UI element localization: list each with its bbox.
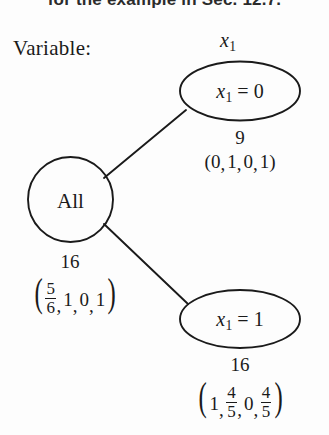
node-relation: = bbox=[237, 308, 248, 330]
fraction-numerator: 4 bbox=[226, 384, 237, 401]
node-value: 0 bbox=[254, 80, 264, 102]
tuple-item-0: 0 bbox=[211, 151, 221, 172]
figure-canvas: for the example in Sec. 12.7. Variable: … bbox=[0, 0, 329, 435]
tuple-item-2: 0 bbox=[244, 394, 254, 413]
node-symbol: x bbox=[216, 308, 225, 330]
fraction-denominator: 5 bbox=[226, 403, 237, 420]
root-node-label: All bbox=[28, 191, 113, 212]
node-label-x1-equals-1: x1 = 1 bbox=[180, 309, 300, 332]
fraction-denominator: 6 bbox=[45, 299, 56, 316]
count-x1-equals-0: 9 bbox=[190, 128, 290, 147]
tuple-item-2: 0 bbox=[79, 290, 89, 309]
tuple-x1-equals-0: (0,1,0,1) bbox=[175, 152, 305, 173]
tuple-item-1-fraction: 4 5 bbox=[226, 384, 237, 421]
fraction-numerator: 4 bbox=[261, 384, 272, 401]
fraction-numerator: 5 bbox=[45, 280, 56, 297]
node-relation: = bbox=[237, 80, 248, 102]
fraction-denominator: 5 bbox=[261, 403, 272, 420]
tuple-root: ( 5 6 ,1,0,1 ) bbox=[5, 281, 145, 318]
node-symbol: x bbox=[216, 80, 225, 102]
edge-root-to-x1-equals-0 bbox=[104, 110, 186, 178]
node-label-x1-equals-0: x1 = 0 bbox=[180, 81, 300, 104]
tuple-close-paren: ) bbox=[269, 151, 275, 172]
tuple-item-0-fraction: 5 6 bbox=[45, 280, 56, 317]
tuple-item-3: 1 bbox=[96, 290, 106, 309]
tuple-item-3: 1 bbox=[260, 151, 270, 172]
tuple-item-2: 0 bbox=[243, 151, 253, 172]
node-subscript: 1 bbox=[225, 90, 232, 105]
tuple-item-0: 1 bbox=[209, 394, 219, 413]
tuple-item-3-fraction: 4 5 bbox=[261, 384, 272, 421]
count-x1-equals-1: 16 bbox=[190, 355, 290, 374]
node-value: 1 bbox=[254, 308, 264, 330]
count-root: 16 bbox=[25, 252, 115, 271]
tuple-item-1: 1 bbox=[63, 290, 73, 309]
node-subscript: 1 bbox=[225, 318, 232, 333]
tuple-x1-equals-1: ( 1, 4 5 ,0, 4 5 ) bbox=[168, 385, 313, 422]
tuple-item-1: 1 bbox=[227, 151, 237, 172]
